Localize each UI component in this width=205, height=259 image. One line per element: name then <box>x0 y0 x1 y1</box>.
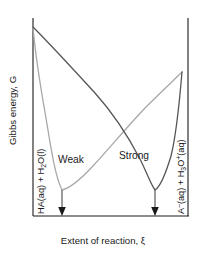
left-species-text: HA(aq) + H <box>36 168 46 214</box>
xi-symbol: ξ <box>141 235 146 246</box>
chart-canvas: Gibbs energy, G HA(aq) + H2O(l) A–(aq) +… <box>0 0 205 259</box>
x-axis-title-text: Extent of reaction, <box>61 235 141 246</box>
x-axis-title: Extent of reaction, ξ <box>61 235 146 246</box>
gibbs-energy-chart: Gibbs energy, G HA(aq) + H2O(l) A–(aq) +… <box>0 0 205 259</box>
left-species-text-2: O(l) <box>36 149 46 164</box>
y-axis-title: Gibbs energy, G <box>7 76 18 145</box>
right-species-text-4: (aq) <box>176 139 186 155</box>
weak-equilibrium-arrow <box>58 207 66 216</box>
curve-strong <box>33 27 182 190</box>
right-species-text-2: (aq) + H <box>176 171 186 204</box>
weak-curve-label: Weak <box>58 154 85 165</box>
right-species-text-3: O <box>176 160 186 167</box>
strong-curve-label: Strong <box>119 150 149 161</box>
strong-equilibrium-arrow <box>151 207 159 216</box>
left-species-label: HA(aq) + H2O(l) <box>36 149 47 214</box>
right-species-label: A–(aq) + H3O+(aq) <box>175 139 187 214</box>
